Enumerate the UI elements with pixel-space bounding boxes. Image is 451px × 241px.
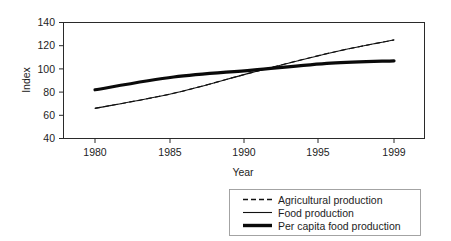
y-axis-ticks [59, 23, 64, 139]
x-axis-title: Year [232, 166, 254, 178]
y-tick-label-120: 120 [37, 39, 55, 51]
legend-label-food-production: Food production [278, 207, 354, 219]
legend-label-agricultural-production: Agricultural production [278, 194, 383, 206]
y-axis-title: Index [20, 66, 32, 92]
series-line-per-capita-food-production [95, 61, 394, 90]
line-chart-canvas: 140 120 100 80 60 40 1980 1985 1990 1995… [0, 0, 451, 241]
x-tick-label-1980: 1980 [83, 146, 107, 158]
x-tick-label-1999: 1999 [382, 146, 406, 158]
chart-legend: Agricultural production Food production … [230, 190, 421, 236]
y-tick-label-100: 100 [37, 63, 55, 75]
y-tick-label-140: 140 [37, 16, 55, 28]
x-tick-label-1990: 1990 [232, 146, 256, 158]
chart-figure: 140 120 100 80 60 40 1980 1985 1990 1995… [0, 0, 451, 241]
x-tick-label-1995: 1995 [306, 146, 330, 158]
x-tick-label-1985: 1985 [158, 146, 182, 158]
series-line-food-production [95, 40, 394, 108]
plot-frame [64, 23, 425, 139]
y-tick-label-80: 80 [43, 86, 55, 98]
legend-label-per-capita-food-production: Per capita food production [278, 220, 401, 232]
y-tick-label-40: 40 [43, 132, 55, 144]
x-axis-ticks [95, 139, 394, 144]
y-tick-label-60: 60 [43, 109, 55, 121]
